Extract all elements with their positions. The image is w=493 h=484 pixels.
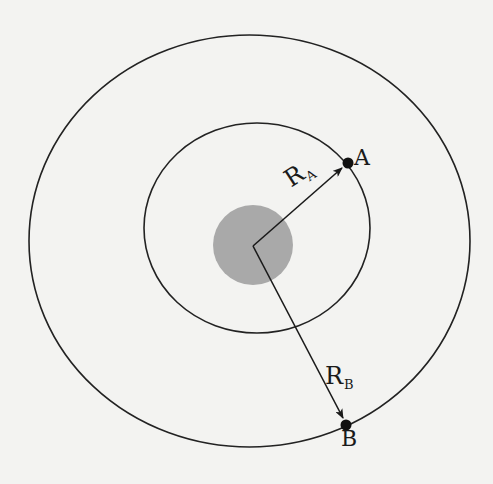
point-a-label: A — [354, 147, 370, 169]
radius-b-subscript: B — [344, 377, 354, 392]
orbit-diagram: A B RA RB — [0, 0, 493, 484]
radius-b-main: R — [325, 362, 343, 390]
point-b-label: B — [341, 428, 357, 450]
diagram-canvas — [0, 0, 493, 484]
radius-b-label: RB — [325, 364, 354, 388]
point-a-dot — [343, 158, 354, 169]
